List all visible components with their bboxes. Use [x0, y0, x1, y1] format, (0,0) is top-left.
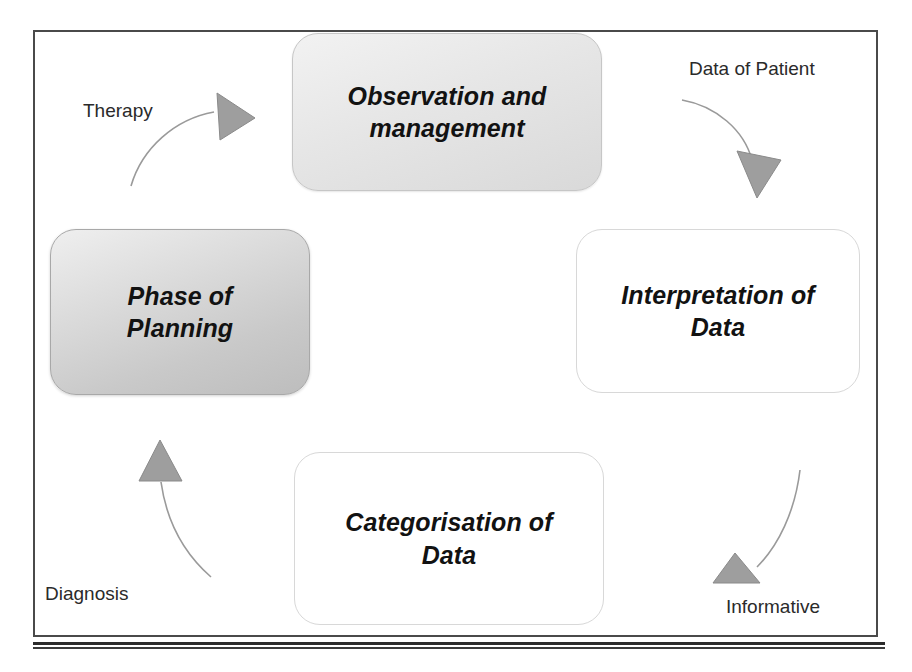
node-planning-label: Phase of Planning	[127, 280, 233, 345]
edge-label-data-of-patient: Data of Patient	[689, 58, 815, 80]
bottom-divider-rule	[33, 642, 885, 649]
edge-label-diagnosis: Diagnosis	[45, 583, 128, 605]
edge-label-therapy: Therapy	[83, 100, 153, 122]
node-categorisation-of-data[interactable]: Categorisation of Data	[294, 452, 604, 625]
node-observation-and-management[interactable]: Observation and management	[292, 33, 602, 191]
node-interpretation-of-data[interactable]: Interpretation of Data	[576, 229, 860, 393]
node-categorisation-label: Categorisation of Data	[345, 506, 552, 571]
node-phase-of-planning[interactable]: Phase of Planning	[50, 229, 310, 395]
node-interpretation-label: Interpretation of Data	[621, 279, 814, 344]
node-observation-label: Observation and management	[348, 80, 547, 145]
edge-label-informative: Informative	[726, 596, 820, 618]
diagram-canvas: Observation and management Interpretatio…	[0, 0, 912, 672]
